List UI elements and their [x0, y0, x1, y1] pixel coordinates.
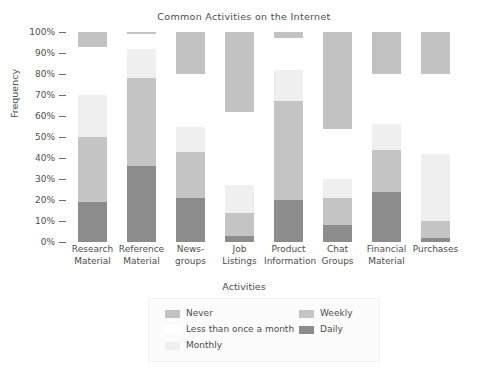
- bar-segment-monthly[interactable]: [225, 185, 254, 212]
- bar-segment-weekly[interactable]: [372, 150, 401, 192]
- x-axis-tick-label-line: Research: [68, 244, 117, 256]
- bar-segment-less-than-once-a-month[interactable]: [127, 34, 156, 49]
- chart-figure: Common Activities on the Internet 100%90…: [0, 0, 488, 382]
- bar-segment-monthly[interactable]: [78, 95, 107, 137]
- y-axis-tick-mark: [59, 221, 66, 222]
- x-axis-tick-label-line: Chat: [313, 244, 362, 256]
- bar-segment-less-than-once-a-month[interactable]: [323, 129, 352, 179]
- legend-entry-daily[interactable]: Daily: [299, 325, 343, 334]
- x-axis: ResearchMaterialReferenceMaterialNews-gr…: [68, 244, 460, 278]
- bar-segment-never[interactable]: [78, 32, 107, 47]
- legend-swatch-icon: [165, 342, 180, 350]
- y-axis-tick-label: 100%: [29, 28, 55, 37]
- x-axis-tick-label-line: Reference: [117, 244, 166, 256]
- bar-segment-less-than-once-a-month[interactable]: [274, 38, 303, 70]
- bar-segment-never[interactable]: [225, 32, 254, 112]
- bar-stack: [274, 32, 303, 242]
- bar-group[interactable]: [78, 32, 107, 242]
- bar-segment-monthly[interactable]: [323, 179, 352, 198]
- x-axis-tick-label-line: News-: [166, 244, 215, 256]
- bar-segment-less-than-once-a-month[interactable]: [78, 47, 107, 95]
- bar-segment-daily[interactable]: [323, 225, 352, 242]
- bar-segment-monthly[interactable]: [176, 127, 205, 152]
- bar-segment-less-than-once-a-month[interactable]: [225, 112, 254, 186]
- legend-entry-never[interactable]: Never: [165, 309, 213, 318]
- x-axis-tick-label-line: Groups: [313, 256, 362, 268]
- legend-entry-less-than-once-a-month[interactable]: Less than once a month: [165, 325, 294, 334]
- bar-stack: [78, 32, 107, 242]
- bar-segment-daily[interactable]: [421, 238, 450, 242]
- x-axis-tick-label-line: Product: [264, 244, 313, 256]
- y-axis-tick-label: 80%: [35, 70, 55, 79]
- bar-group[interactable]: [274, 32, 303, 242]
- bar-segment-daily[interactable]: [274, 200, 303, 242]
- y-axis-tick-label: 0%: [41, 238, 55, 247]
- bar-segment-daily[interactable]: [78, 202, 107, 242]
- legend-entry-weekly[interactable]: Weekly: [299, 309, 352, 318]
- bar-stack: [421, 32, 450, 242]
- bar-segment-never[interactable]: [421, 32, 450, 74]
- x-axis-tick-label: ChatGroups: [313, 244, 362, 267]
- bar-group[interactable]: [176, 32, 205, 242]
- bar-segment-less-than-once-a-month[interactable]: [421, 74, 450, 154]
- bar-group[interactable]: [421, 32, 450, 242]
- x-axis-tick-label-line: Financial: [362, 244, 411, 256]
- y-axis-label: Frequency: [9, 44, 20, 144]
- bar-segment-never[interactable]: [323, 32, 352, 129]
- bar-segment-weekly[interactable]: [176, 152, 205, 198]
- bar-segment-weekly[interactable]: [323, 198, 352, 225]
- bar-segment-monthly[interactable]: [274, 70, 303, 102]
- y-axis-tick-mark: [59, 200, 66, 201]
- legend-label: Monthly: [186, 341, 222, 350]
- x-axis-tick-label: ProductInformation: [264, 244, 313, 267]
- x-axis-tick-label: Purchases: [411, 244, 460, 256]
- bar-segment-less-than-once-a-month[interactable]: [372, 74, 401, 124]
- bar-segment-less-than-once-a-month[interactable]: [176, 74, 205, 127]
- bar-segment-weekly[interactable]: [421, 221, 450, 238]
- bar-segment-weekly[interactable]: [127, 78, 156, 166]
- legend-label: Daily: [320, 325, 343, 334]
- y-axis-tick-mark: [59, 179, 66, 180]
- x-axis-tick-label-line: Material: [117, 256, 166, 268]
- bar-group[interactable]: [372, 32, 401, 242]
- bar-segment-weekly[interactable]: [274, 101, 303, 200]
- bar-segment-weekly[interactable]: [78, 137, 107, 202]
- plot-area: [68, 32, 460, 242]
- y-axis-tick-label: 70%: [35, 91, 55, 100]
- bar-segment-monthly[interactable]: [372, 124, 401, 149]
- bar-segment-weekly[interactable]: [225, 213, 254, 236]
- x-axis-tick-label: JobListings: [215, 244, 264, 267]
- bar-stack: [127, 32, 156, 242]
- bar-group[interactable]: [225, 32, 254, 242]
- bar-segment-daily[interactable]: [176, 198, 205, 242]
- bar-segment-monthly[interactable]: [127, 49, 156, 78]
- y-axis-tick-mark: [59, 95, 66, 96]
- bar-segment-daily[interactable]: [127, 166, 156, 242]
- bar-group[interactable]: [127, 32, 156, 242]
- bar-segment-never[interactable]: [372, 32, 401, 74]
- legend-label: Less than once a month: [186, 325, 294, 334]
- y-axis-tick-label: 10%: [35, 217, 55, 226]
- bar-segment-never[interactable]: [274, 32, 303, 38]
- bar-segment-monthly[interactable]: [421, 154, 450, 221]
- bar-segment-never[interactable]: [127, 32, 156, 34]
- bar-group[interactable]: [323, 32, 352, 242]
- y-axis-tick-label: 50%: [35, 133, 55, 142]
- y-axis-tick-label: 30%: [35, 175, 55, 184]
- bar-segment-daily[interactable]: [372, 192, 401, 242]
- bar-stack: [323, 32, 352, 242]
- x-axis-tick-label: ResearchMaterial: [68, 244, 117, 267]
- y-axis-tick-label: 60%: [35, 112, 55, 121]
- bar-segment-daily[interactable]: [225, 236, 254, 242]
- x-axis-tick-label: FinancialMaterial: [362, 244, 411, 267]
- legend-label: Weekly: [320, 309, 352, 318]
- x-axis-tick-label: News-groups: [166, 244, 215, 267]
- bar-stack: [372, 32, 401, 242]
- bar-stack: [225, 32, 254, 242]
- bar-segment-never[interactable]: [176, 32, 205, 74]
- x-axis-tick-label-line: Material: [362, 256, 411, 268]
- y-axis-tick-mark: [59, 242, 66, 243]
- x-axis-tick-label-line: Purchases: [411, 244, 460, 256]
- legend-entry-monthly[interactable]: Monthly: [165, 341, 222, 350]
- chart-legend: NeverLess than once a monthMonthlyWeekly…: [148, 298, 380, 362]
